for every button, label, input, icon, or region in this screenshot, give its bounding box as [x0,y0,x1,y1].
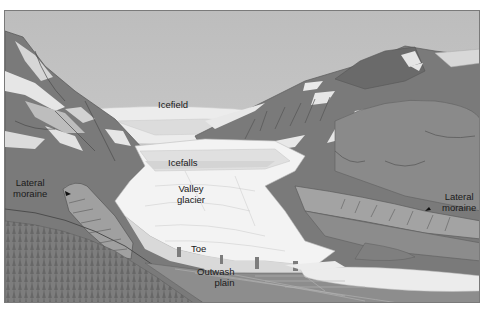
label-valley-glacier: Valley glacier [177,183,205,205]
label-outwash-plain: Outwash plain [197,266,235,288]
label-toe-text: Toe [191,243,206,254]
label-lateral-moraine-left-line2: moraine [13,188,47,199]
label-icefalls: Icefalls [168,157,198,168]
label-lateral-moraine-right-line2: moraine [442,202,476,213]
label-toe: Toe [191,243,206,254]
label-outwash-plain-line1: Outwash [197,266,235,277]
label-icefield: Icefield [158,99,188,110]
label-lateral-moraine-left-line1: Lateral [13,177,47,188]
label-icefalls-text: Icefalls [168,157,198,168]
glacier-landscape-illustration [5,11,480,303]
label-outwash-plain-line2: plain [197,277,235,288]
label-valley-glacier-line2: glacier [177,194,205,205]
label-icefield-text: Icefield [158,99,188,110]
diagram-frame: Icefield Icefalls Valley glacier Lateral… [4,10,480,303]
label-valley-glacier-line1: Valley [177,183,205,194]
label-lateral-moraine-right-line1: Lateral [442,191,476,202]
label-lateral-moraine-right: Lateral moraine [442,191,476,213]
label-lateral-moraine-left: Lateral moraine [13,177,47,199]
